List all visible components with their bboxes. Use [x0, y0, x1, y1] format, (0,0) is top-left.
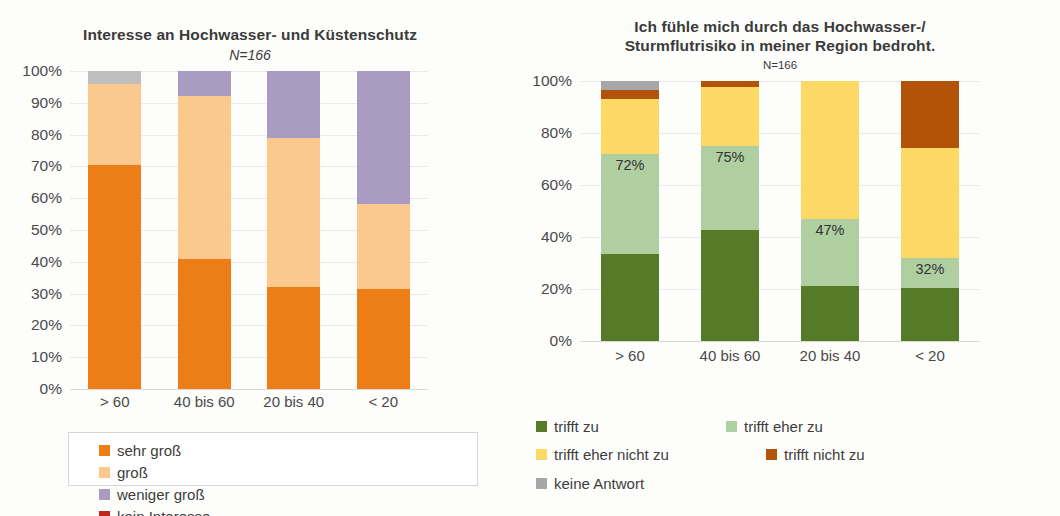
legend-item[interactable]: weniger groß [99, 483, 289, 505]
bar-segment[interactable]: 72% [601, 154, 659, 254]
x-axis-tick-label: > 60 [70, 393, 160, 410]
legend-swatch-icon [726, 421, 737, 432]
legend-label: groß [117, 464, 148, 481]
bar-segment[interactable] [178, 259, 231, 389]
chart-right-plot: 0%20%40%60%80%100% 72%75%47%32% > 6040 b… [500, 81, 1060, 341]
y-axis-tick-label: 80% [31, 126, 62, 144]
bar-segment[interactable] [357, 71, 410, 205]
stacked-bar[interactable]: 32% [901, 81, 959, 341]
chart-left-plot-area [70, 71, 428, 389]
chart-left-plot: 0%10%20%30%40%50%60%70%80%90%100% > 6040… [6, 71, 486, 389]
legend-swatch-icon [99, 445, 110, 456]
legend-label: trifft zu [554, 418, 599, 435]
bar-segment[interactable] [88, 84, 141, 165]
bar-segment[interactable] [801, 81, 859, 219]
bar-segment[interactable] [801, 286, 859, 341]
bar-segment[interactable]: 75% [701, 146, 759, 231]
legend-label: sehr groß [117, 442, 181, 459]
stacked-bar[interactable]: 47% [801, 81, 859, 341]
chart-right-bars: 72%75%47%32% [580, 81, 980, 341]
bar-segment[interactable] [901, 288, 959, 341]
chart-bedrohungsgefuehl: Ich fühle mich durch das Hochwasser-/ St… [500, 0, 1060, 516]
bar-segment[interactable] [357, 289, 410, 389]
bar-segment[interactable] [267, 287, 320, 389]
bar-segment[interactable] [901, 148, 959, 257]
y-axis-tick-label: 30% [31, 285, 62, 303]
x-axis-tick-label: < 20 [880, 347, 980, 364]
legend-item[interactable]: trifft eher nicht zu [536, 441, 766, 469]
chart-right-y-axis: 0%20%40%60%80%100% [500, 81, 578, 341]
bar-segment[interactable] [701, 230, 759, 341]
y-axis-tick-label: 70% [31, 157, 62, 175]
legend-swatch-icon [536, 449, 547, 460]
y-axis-tick-label: 0% [550, 332, 572, 350]
bar-data-label: 72% [615, 157, 644, 173]
x-axis-tick-label: 40 bis 60 [160, 393, 250, 410]
legend-swatch-icon [536, 421, 547, 432]
stacked-bar[interactable] [178, 71, 231, 389]
x-axis-tick-label: 20 bis 40 [249, 393, 339, 410]
x-axis-tick-label: > 60 [580, 347, 680, 364]
bar-segment[interactable] [178, 71, 231, 96]
legend-label: trifft eher zu [744, 418, 823, 435]
y-axis-tick-label: 100% [22, 62, 62, 80]
legend-item[interactable]: trifft zu [536, 412, 726, 440]
legend-swatch-icon [99, 511, 110, 516]
chart-left-legend: sehr großgroßweniger großkein Interesse [68, 432, 478, 486]
bar-segment[interactable] [701, 87, 759, 146]
chart-right-x-axis: > 6040 bis 6020 bis 40< 20 [580, 347, 980, 364]
chart-right-legend: trifft zutrifft eher zutrifft eher nicht… [536, 412, 1006, 498]
legend-label: weniger groß [117, 486, 205, 503]
x-axis-tick-label: 20 bis 40 [780, 347, 880, 364]
legend-item[interactable]: kein Interesse [99, 505, 289, 516]
y-axis-tick-label: 60% [541, 176, 572, 194]
chart-right-title: Ich fühle mich durch das Hochwasser-/ St… [500, 18, 1060, 56]
slide-canvas: Interesse an Hochwasser- und Küstenschut… [0, 0, 1060, 516]
bar-segment[interactable] [601, 81, 659, 90]
stacked-bar[interactable] [267, 71, 320, 389]
stacked-bar[interactable]: 72% [601, 81, 659, 341]
legend-label: keine Antwort [554, 475, 644, 492]
legend-swatch-icon [536, 478, 547, 489]
y-axis-tick-label: 80% [541, 124, 572, 142]
chart-left-x-axis: > 6040 bis 6020 bis 40< 20 [70, 393, 428, 410]
stacked-bar[interactable] [88, 71, 141, 389]
bar-segment[interactable] [178, 96, 231, 258]
stacked-bar[interactable]: 75% [701, 81, 759, 341]
legend-item[interactable]: trifft eher zu [726, 412, 926, 440]
chart-right-title-line-2: Sturmflutrisiko in meiner Region bedroht… [500, 37, 1060, 56]
bar-segment[interactable] [601, 99, 659, 154]
bar-segment[interactable] [901, 81, 959, 149]
stacked-bar[interactable] [357, 71, 410, 389]
y-axis-tick-label: 0% [40, 380, 62, 398]
y-axis-tick-label: 40% [31, 253, 62, 271]
chart-right-title-line-1: Ich fühle mich durch das Hochwasser-/ [500, 18, 1060, 37]
y-axis-tick-label: 10% [31, 348, 62, 366]
bar-segment[interactable] [601, 254, 659, 341]
bar-segment[interactable] [267, 71, 320, 138]
y-axis-tick-label: 60% [31, 189, 62, 207]
bar-segment[interactable] [88, 71, 141, 84]
legend-item[interactable]: groß [99, 461, 289, 483]
bar-segment[interactable] [88, 165, 141, 389]
bar-segment[interactable] [267, 138, 320, 287]
y-axis-tick-label: 90% [31, 94, 62, 112]
chart-interesse-hochwasser-kuestenschutz: Interesse an Hochwasser- und Küstenschut… [0, 0, 500, 516]
gridline [580, 341, 980, 342]
legend-item[interactable]: keine Antwort [536, 469, 766, 497]
bar-data-label: 32% [915, 261, 944, 277]
x-axis-tick-label: < 20 [339, 393, 429, 410]
legend-swatch-icon [99, 467, 110, 478]
x-axis-tick-label: 40 bis 60 [680, 347, 780, 364]
legend-item[interactable]: sehr groß [99, 439, 289, 461]
bar-segment[interactable]: 32% [901, 258, 959, 288]
bar-segment[interactable] [601, 90, 659, 99]
bar-data-label: 47% [815, 222, 844, 238]
bar-segment[interactable] [357, 204, 410, 288]
y-axis-tick-label: 50% [31, 221, 62, 239]
y-axis-tick-label: 40% [541, 228, 572, 246]
y-axis-tick-label: 20% [541, 280, 572, 298]
bar-segment[interactable]: 47% [801, 219, 859, 287]
legend-label: trifft nicht zu [784, 446, 865, 463]
legend-item[interactable]: trifft nicht zu [766, 441, 946, 469]
